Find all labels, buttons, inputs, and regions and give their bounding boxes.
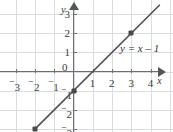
y-tick-mark xyxy=(73,129,77,130)
y-axis-arrow-icon xyxy=(69,2,79,10)
equation-annotation: y = x – 1 xyxy=(120,43,159,54)
grid-line-horizontal xyxy=(0,129,173,130)
data-point-marker xyxy=(129,31,134,36)
grid-line-vertical xyxy=(170,0,171,132)
y-axis-label: y xyxy=(61,5,66,16)
x-tick-label: ⁻1 xyxy=(48,78,59,93)
grid-line-horizontal xyxy=(0,110,173,111)
y-tick-mark xyxy=(73,52,77,53)
x-tick-label: 1 xyxy=(90,78,96,89)
y-tick-label: 1 xyxy=(65,47,71,58)
grid-line-vertical xyxy=(16,0,17,132)
x-tick-label: 3 xyxy=(128,78,134,89)
x-tick-mark xyxy=(35,69,36,73)
x-tick-mark xyxy=(16,69,17,73)
x-tick-mark xyxy=(54,69,55,73)
x-axis-label: x xyxy=(157,76,162,87)
x-tick-label: ⁻2 xyxy=(28,78,39,93)
x-tick-label: ⁻3 xyxy=(9,78,20,93)
x-tick-label: 2 xyxy=(109,78,115,89)
origin-label: 0 xyxy=(62,62,68,73)
y-tick-label: 2 xyxy=(65,28,71,39)
y-tick-label: ⁻2 xyxy=(61,105,72,120)
x-tick-mark xyxy=(112,69,113,73)
x-tick-mark xyxy=(131,69,132,73)
data-point-marker xyxy=(71,88,76,93)
grid-line-vertical xyxy=(112,0,113,132)
grid-line-horizontal xyxy=(0,33,173,34)
coordinate-plane-figure: ⁻3⁻2⁻11234 321⁻1⁻2⁻3 0 x y y = x – 1 xyxy=(0,0,173,132)
x-tick-mark xyxy=(93,69,94,73)
x-axis xyxy=(0,71,160,73)
data-point-marker xyxy=(32,127,37,132)
y-tick-mark xyxy=(73,14,77,15)
grid-line-vertical xyxy=(93,0,94,132)
x-tick-mark xyxy=(151,69,152,73)
y-tick-mark xyxy=(73,110,77,111)
plotted-line xyxy=(0,0,173,132)
x-tick-label: 4 xyxy=(148,78,154,89)
y-tick-label: ⁻3 xyxy=(61,124,72,132)
grid-line-horizontal xyxy=(0,14,173,15)
grid-line-vertical xyxy=(131,0,132,132)
grid-line-vertical xyxy=(54,0,55,132)
y-axis xyxy=(73,4,75,132)
y-tick-mark xyxy=(73,33,77,34)
grid-line-vertical xyxy=(35,0,36,132)
grid-line-vertical xyxy=(151,0,152,132)
grid-line-horizontal xyxy=(0,91,173,92)
